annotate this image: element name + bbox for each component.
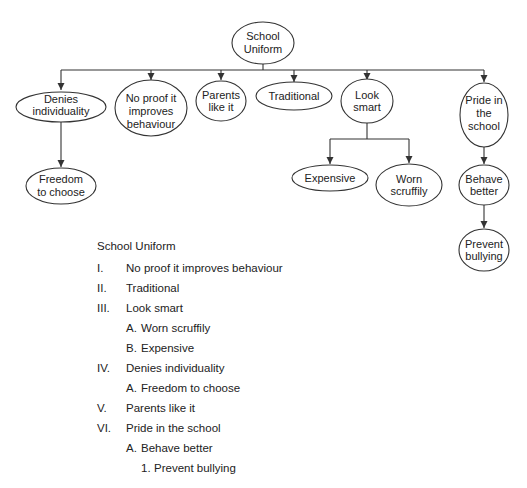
outline-number: A. bbox=[126, 380, 137, 396]
node-label: Behave bbox=[465, 173, 502, 185]
node-label: scruffily bbox=[390, 185, 428, 197]
node-pride-in-the-school: Pride in the school bbox=[460, 83, 508, 147]
node-traditional: Traditional bbox=[256, 82, 332, 110]
outline-label: Freedom to choose bbox=[141, 380, 240, 396]
outline-number: IV. bbox=[97, 360, 110, 376]
node-label: Freedom bbox=[39, 173, 83, 185]
node-label: behaviour bbox=[127, 118, 176, 130]
outline-label: Expensive bbox=[141, 340, 194, 356]
node-label: the bbox=[476, 107, 491, 119]
node-label: Traditional bbox=[269, 90, 320, 102]
outline-label: No proof it improves behaviour bbox=[126, 260, 283, 276]
outline-number: V. bbox=[97, 400, 107, 416]
node-label: Prevent bbox=[465, 238, 503, 250]
outline-title: School Uniform bbox=[97, 240, 176, 252]
node-label: Denies bbox=[44, 93, 79, 105]
node-parents-like-it: Parents like it bbox=[196, 81, 246, 121]
node-label: No proof it bbox=[126, 92, 177, 104]
node-label: Worn bbox=[396, 173, 422, 185]
node-label: bullying bbox=[465, 250, 502, 262]
node-prevent-bullying: Prevent bullying bbox=[459, 229, 509, 271]
node-label: Pride in bbox=[465, 94, 502, 106]
outline-number: B. bbox=[126, 340, 137, 356]
node-label: individuality bbox=[33, 105, 90, 117]
node-label: better bbox=[470, 185, 498, 197]
node-expensive: Expensive bbox=[292, 165, 368, 191]
node-look-smart: Look smart bbox=[341, 79, 393, 123]
node-freedom-to-choose: Freedom to choose bbox=[26, 168, 96, 204]
node-label: School bbox=[246, 30, 280, 42]
outline-label: Behave better bbox=[141, 440, 213, 456]
node-label: Parents bbox=[202, 89, 240, 101]
node-label: Expensive bbox=[305, 172, 356, 184]
node-label: school bbox=[468, 120, 500, 132]
outline-number: III. bbox=[97, 300, 110, 316]
outline-label: Look smart bbox=[126, 300, 183, 316]
node-no-proof-it-improves-behaviour: No proof it improves behaviour bbox=[115, 80, 187, 136]
outline-label: Worn scruffily bbox=[141, 320, 210, 336]
node-behave-better: Behave better bbox=[459, 165, 509, 205]
outline-label: Denies individuality bbox=[126, 360, 224, 376]
outline-label: Pride in the school bbox=[126, 420, 221, 436]
node-worn-scruffily: Worn scruffily bbox=[376, 164, 442, 206]
node-label: to choose bbox=[37, 186, 85, 198]
node-label: Look bbox=[355, 89, 379, 101]
node-school-uniform: School Uniform bbox=[232, 22, 294, 64]
outline-number: VI. bbox=[97, 420, 111, 436]
outline-number: II. bbox=[97, 280, 107, 296]
concept-map: School Uniform Denies individuality No p… bbox=[0, 0, 527, 290]
outline-number: 1. bbox=[141, 460, 151, 476]
node-label: smart bbox=[353, 101, 381, 113]
outline-number: A. bbox=[126, 440, 137, 456]
outline-number: I. bbox=[97, 260, 103, 276]
node-label: like it bbox=[208, 101, 233, 113]
outline-label: Parents like it bbox=[126, 400, 195, 416]
outline-number: A. bbox=[126, 320, 137, 336]
node-label: Uniform bbox=[244, 43, 283, 55]
node-denies-individuality: Denies individuality bbox=[16, 92, 106, 122]
outline-label: Traditional bbox=[126, 280, 179, 296]
outline-label: Prevent bullying bbox=[154, 460, 236, 476]
node-label: improves bbox=[129, 105, 174, 117]
